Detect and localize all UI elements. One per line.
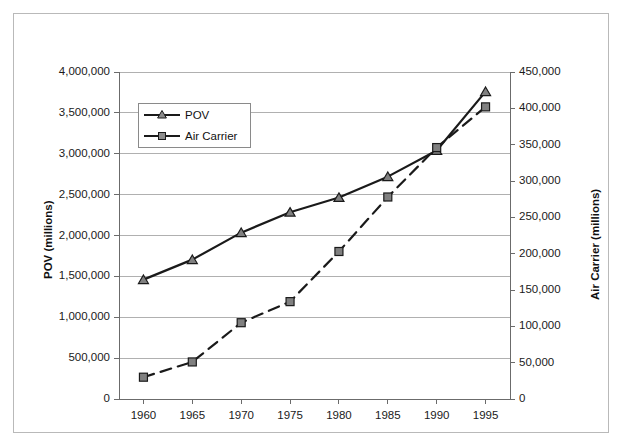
- y-axis-left-tick-3500000: 3,500,000: [59, 107, 110, 119]
- y-axis-left-tick-500000: 500,000: [68, 352, 110, 364]
- data-point-air-carrier-1980: [335, 247, 343, 255]
- legend-label-air-carrier: Air Carrier: [185, 130, 237, 142]
- y-axis-left-tick-3000000: 3,000,000: [59, 148, 110, 160]
- y-axis-right-tick-50000: 50,000: [519, 357, 554, 369]
- y-axis-right-tick-400000: 400,000: [519, 102, 561, 114]
- data-point-pov-1965: [187, 255, 197, 264]
- triangle-marker-icon: [143, 108, 181, 122]
- y-axis-right-tick-350000: 350,000: [519, 139, 561, 151]
- y-axis-right-tick-250000: 250,000: [519, 211, 561, 223]
- y-axis-right-tick-200000: 200,000: [519, 248, 561, 260]
- y-axis-right-tick-300000: 300,000: [519, 175, 561, 187]
- legend-label-pov: POV: [185, 109, 209, 121]
- y-axis-right-title: Air Carrier (millions): [590, 188, 602, 299]
- data-point-air-carrier-1990: [433, 144, 441, 152]
- data-point-air-carrier-1960: [139, 373, 147, 381]
- data-point-pov-1985: [383, 172, 393, 181]
- square-marker-icon: [143, 129, 181, 143]
- x-axis-tick-1995: 1995: [456, 410, 516, 422]
- y-axis-left-tick-2500000: 2,500,000: [59, 189, 110, 201]
- legend-item-pov: POV: [143, 105, 209, 125]
- data-point-air-carrier-1965: [188, 358, 196, 366]
- y-axis-left-title: POV (millions): [43, 200, 55, 279]
- y-axis-left-tick-0: 0: [104, 393, 110, 405]
- y-axis-left-tick-4000000: 4,000,000: [59, 66, 110, 78]
- y-axis-right-tick-450000: 450,000: [519, 66, 561, 78]
- data-point-air-carrier-1985: [384, 193, 392, 201]
- chart-figure: 0500,0001,000,0001,500,0002,000,0002,500…: [0, 0, 623, 447]
- data-point-air-carrier-1970: [237, 319, 245, 327]
- y-axis-left-tick-2000000: 2,000,000: [59, 230, 110, 242]
- y-axis-left-tick-1500000: 1,500,000: [59, 270, 110, 282]
- legend-item-air-carrier: Air Carrier: [143, 126, 237, 146]
- y-axis-right-tick-100000: 100,000: [519, 320, 561, 332]
- y-axis-right-tick-0: 0: [519, 393, 525, 405]
- y-axis-right-tick-150000: 150,000: [519, 284, 561, 296]
- data-point-air-carrier-1995: [482, 103, 490, 111]
- data-point-pov-1995: [481, 87, 491, 96]
- chart-legend: POV Air Carrier: [138, 103, 251, 148]
- data-point-air-carrier-1975: [286, 298, 294, 306]
- y-axis-left-tick-1000000: 1,000,000: [59, 311, 110, 323]
